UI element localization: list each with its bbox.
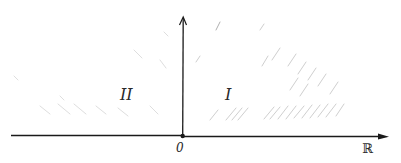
horizontal-axis-label: ℝ	[362, 141, 373, 156]
origin-point	[181, 134, 185, 138]
origin-label: 0	[176, 141, 184, 155]
region-2-label: II	[120, 85, 133, 104]
horizontal-axis-arrowhead-icon	[378, 134, 389, 140]
region-2-hatching	[14, 32, 168, 116]
diagram-canvas	[0, 0, 401, 163]
vertical-axis	[183, 18, 184, 136]
region-1-label: I	[225, 85, 231, 104]
region-1-hatching	[196, 22, 344, 120]
